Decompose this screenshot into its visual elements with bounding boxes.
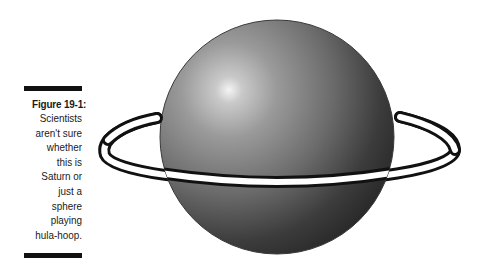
caption-line: playing: [32, 213, 82, 228]
caption-line: whether: [32, 140, 82, 155]
ring-right-tip: [400, 117, 455, 150]
figure-caption: Figure 19-1: Scientists aren't sure whet…: [24, 86, 82, 242]
caption-rule-bottom: [24, 253, 82, 258]
caption-line: hula-hoop.: [32, 228, 82, 243]
sphere: [160, 20, 394, 254]
figure-label: Figure 19-1:: [32, 97, 82, 111]
caption-rule-top: [24, 86, 82, 91]
ring-left-tip: [108, 118, 157, 140]
caption-line: aren't sure: [32, 126, 82, 141]
caption-text: Scientists aren't sure whether this is S…: [32, 111, 82, 242]
caption-line: Saturn or: [32, 169, 82, 184]
figure: Figure 19-1: Scientists aren't sure whet…: [0, 0, 492, 270]
caption-line: this is: [32, 155, 82, 170]
caption-line: just a: [32, 184, 82, 199]
caption-line: Scientists: [32, 111, 82, 126]
caption-line: sphere: [32, 199, 82, 214]
